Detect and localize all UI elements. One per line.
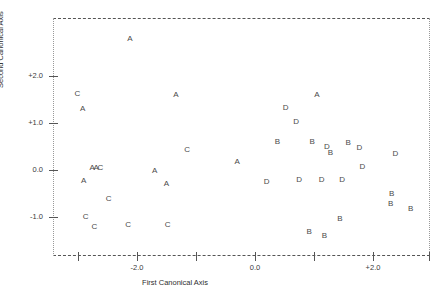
data-point-a: A — [164, 180, 170, 188]
data-point-c: C — [106, 195, 112, 203]
data-point-c: C — [97, 164, 103, 172]
data-point-b: B — [345, 139, 351, 147]
data-point-a: A — [127, 35, 133, 43]
data-point-b: B — [337, 215, 343, 223]
data-point-d: D — [264, 178, 270, 186]
data-point-b: B — [408, 205, 414, 213]
y-axis-tick-label: -1.0 — [13, 213, 43, 221]
data-point-d: D — [339, 176, 345, 184]
data-point-a: A — [173, 91, 179, 99]
data-point-c: C — [83, 213, 89, 221]
data-point-b: B — [275, 138, 281, 146]
x-axis-tick-label: -2.0 — [117, 264, 157, 272]
data-point-d: D — [296, 176, 302, 184]
y-axis-tick-label: +2.0 — [13, 72, 43, 80]
y-axis-tick-label: 0.0 — [13, 166, 43, 174]
data-point-a: A — [81, 177, 87, 185]
data-point-c: C — [125, 221, 131, 229]
y-axis-tick-label: +1.0 — [13, 119, 43, 127]
data-point-c: C — [92, 223, 98, 231]
data-point-d: D — [293, 118, 299, 126]
data-point-a: A — [152, 167, 158, 175]
data-point-d: D — [392, 150, 398, 158]
data-point-d: D — [356, 144, 362, 152]
canonical-discriminant-scatter-plot: Second Canonical Axis +2.0+1.00.0-1.0 -2… — [0, 0, 444, 298]
data-point-d: D — [324, 143, 330, 151]
data-point-b: B — [309, 138, 315, 146]
data-point-b: B — [322, 232, 328, 240]
x-axis-title: First Canonical Axis — [95, 278, 255, 287]
data-point-b: B — [306, 228, 312, 236]
data-point-d: D — [319, 176, 325, 184]
data-point-c: C — [184, 146, 190, 154]
x-axis-tick-label: 0.0 — [235, 264, 275, 272]
data-point-d: D — [283, 104, 289, 112]
data-point-b: B — [389, 190, 395, 198]
data-point-b: B — [388, 200, 394, 208]
data-point-d: D — [359, 163, 365, 171]
data-point-layer: AAAAAAAAAABBBBBBBBBBCCCCCCCCDDDDDDDDDD — [53, 18, 430, 256]
y-axis-title: Second Canonical Axis — [0, 0, 5, 88]
data-point-a: A — [314, 91, 320, 99]
data-point-a: A — [80, 105, 86, 113]
data-point-c: C — [165, 221, 171, 229]
data-point-a: A — [235, 158, 241, 166]
data-point-c: C — [74, 90, 80, 98]
x-axis-tick-label: +2.0 — [353, 264, 393, 272]
